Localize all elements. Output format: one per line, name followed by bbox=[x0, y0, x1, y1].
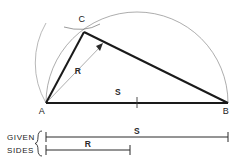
figure-canvas: A B C S R GIVEN SIDES S R bbox=[0, 0, 241, 164]
legend-line-given: GIVEN bbox=[7, 133, 35, 142]
dimension-label-R: R bbox=[75, 66, 81, 76]
vertex-label-A: A bbox=[39, 106, 45, 116]
triangle-side-CB bbox=[84, 32, 228, 103]
legend-line-sides: SIDES bbox=[7, 146, 34, 155]
vertex-label-C: C bbox=[79, 14, 86, 24]
intersection-arc-at-C bbox=[64, 24, 100, 29]
legend-brace bbox=[35, 131, 42, 156]
vertex-label-B: B bbox=[223, 106, 229, 116]
legend-label-S: S bbox=[134, 126, 140, 136]
dimension-label-S: S bbox=[115, 87, 121, 97]
arc-radius-R-from-A bbox=[35, 23, 46, 103]
geometric-construction-diagram: A B C S R GIVEN SIDES S R bbox=[0, 0, 241, 164]
legend-label-R: R bbox=[85, 139, 91, 149]
